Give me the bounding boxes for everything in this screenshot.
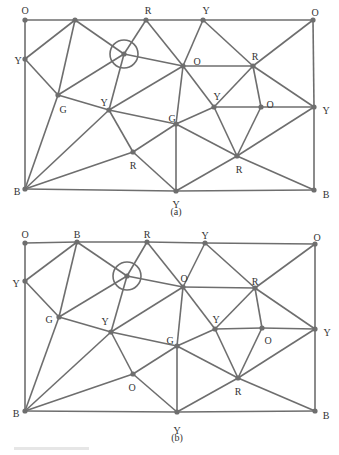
edge: [124, 20, 146, 54]
vertex: [56, 314, 61, 319]
vertex: [259, 325, 264, 330]
edge: [253, 20, 313, 66]
vertex: [311, 187, 316, 192]
edge: [25, 332, 111, 411]
vertex-color-label: G: [59, 104, 66, 115]
vertex: [173, 188, 178, 193]
vertex-color-label: G: [166, 335, 173, 346]
vertex-color-label: Y: [212, 314, 219, 325]
vertex-color-label: R: [144, 229, 151, 240]
footer-rule: [14, 447, 89, 450]
edge: [25, 59, 58, 95]
vertex: [311, 104, 316, 109]
edge: [177, 411, 315, 412]
vertex-color-label: Y: [14, 55, 21, 66]
edge: [127, 242, 147, 276]
vertex: [55, 92, 60, 97]
vertex-color-label: R: [252, 51, 259, 62]
edge: [177, 329, 215, 346]
vertex-color-label: O: [180, 273, 187, 284]
figure-b-caption: (b): [171, 432, 183, 444]
edge: [255, 244, 315, 288]
edge: [183, 287, 255, 288]
vertex-color-label: O: [128, 382, 135, 393]
vertex: [72, 17, 77, 22]
edge: [25, 110, 109, 189]
vertex: [124, 273, 129, 278]
edge: [313, 20, 314, 107]
edge: [77, 242, 127, 276]
edge: [75, 20, 124, 54]
edge: [215, 288, 255, 329]
edge: [147, 242, 205, 243]
figure-b: OBRYOYORGYYOYGORBYB (b): [12, 229, 330, 444]
vertex-color-label: R: [236, 164, 243, 175]
vertex: [22, 408, 27, 413]
vertex-color-label: B: [74, 229, 81, 240]
vertex-color-label: Y: [213, 91, 220, 102]
edge: [109, 110, 176, 124]
edge: [183, 66, 214, 107]
vertex-color-label: G: [45, 314, 52, 325]
vertex-color-label: G: [168, 113, 175, 124]
edge: [176, 107, 214, 124]
figure-b-labels: OBRYOYORGYYOYGORBYB: [12, 229, 330, 436]
vertex-color-label: O: [193, 56, 200, 67]
edge: [109, 110, 133, 152]
vertex: [22, 56, 27, 61]
edge: [253, 66, 314, 107]
figure-a: ORYOYORGYYOYGRRBYB (a): [14, 5, 330, 218]
vertex: [212, 326, 217, 331]
edge: [255, 288, 262, 328]
vertex-color-label: R: [235, 386, 242, 397]
vertex: [174, 409, 179, 414]
edge: [177, 346, 238, 378]
edge: [25, 95, 58, 189]
edge: [203, 20, 253, 66]
vertex: [312, 408, 317, 413]
vertex-color-label: O: [266, 99, 273, 110]
vertex-color-label: B: [323, 410, 330, 421]
vertex-color-label: B: [323, 189, 330, 200]
vertex: [130, 371, 135, 376]
edge: [215, 328, 262, 329]
vertex: [211, 104, 216, 109]
vertex-color-label: O: [313, 232, 320, 243]
vertex-color-label: B: [14, 186, 21, 197]
vertex-color-label: R: [145, 5, 152, 16]
vertex: [258, 104, 263, 109]
vertex: [180, 284, 185, 289]
vertex: [22, 240, 27, 245]
vertex-color-label: O: [21, 229, 28, 240]
figure-a-caption: (a): [170, 206, 181, 218]
vertex: [235, 375, 240, 380]
vertex: [234, 153, 239, 158]
edge: [111, 332, 133, 374]
edge: [177, 287, 183, 346]
edge: [215, 329, 238, 378]
vertex: [22, 186, 27, 191]
vertex-color-label: O: [21, 5, 28, 16]
edge: [238, 378, 315, 411]
edge: [25, 152, 133, 189]
vertex-color-label: Y: [201, 230, 208, 241]
edge: [133, 152, 176, 191]
edge: [25, 374, 133, 411]
edge: [176, 190, 314, 191]
vertex-color-label: Y: [322, 105, 329, 116]
edge: [25, 242, 77, 243]
edge: [237, 156, 314, 190]
figure-b-edges: [25, 242, 315, 412]
vertex-color-label: Y: [100, 97, 107, 108]
figure-b-nodes: [22, 239, 317, 414]
edge: [25, 411, 177, 412]
edge: [183, 287, 215, 329]
vertex-color-label: B: [13, 408, 20, 419]
vertex-color-label: Y: [202, 5, 209, 16]
vertex: [108, 329, 113, 334]
vertex: [312, 326, 317, 331]
vertex: [130, 149, 135, 154]
vertex: [22, 17, 27, 22]
edge: [214, 107, 237, 156]
vertex-color-label: Y: [12, 278, 19, 289]
